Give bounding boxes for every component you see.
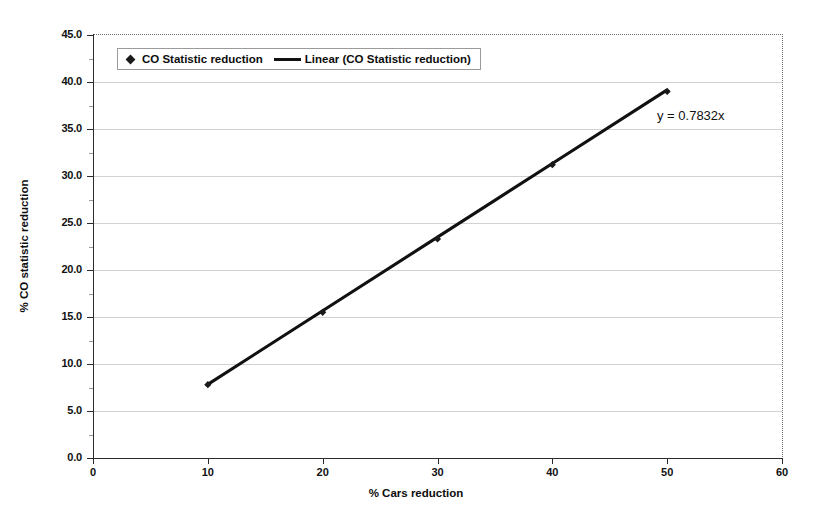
- x-axis-tick-label: 30: [408, 466, 468, 478]
- diamond-marker-icon: [126, 54, 136, 64]
- legend-item-trendline[interactable]: Linear (CO Statistic reduction): [274, 53, 471, 65]
- y-axis-tick-label: 35.0: [30, 122, 82, 134]
- legend-item-scatter[interactable]: CO Statistic reduction: [127, 53, 263, 65]
- gridline-horizontal: [93, 129, 782, 130]
- y-axis-tick-label: 15.0: [30, 310, 82, 322]
- legend-label-scatter: CO Statistic reduction: [142, 53, 263, 65]
- y-axis-tick-label: 10.0: [30, 357, 82, 369]
- gridline-horizontal: [93, 82, 782, 83]
- plot-border-right: [782, 34, 783, 459]
- line-marker-icon: [274, 58, 301, 61]
- y-axis-tick-label: 0.0: [30, 451, 82, 463]
- x-axis-title: % Cars reduction: [0, 487, 832, 499]
- y-axis-tick-label: 40.0: [30, 75, 82, 87]
- gridline-horizontal: [93, 411, 782, 412]
- gridline-horizontal: [93, 223, 782, 224]
- y-axis-tick-label: 20.0: [30, 263, 82, 275]
- x-axis-tick-label: 20: [293, 466, 353, 478]
- y-axis-line: [93, 34, 94, 459]
- chart-legend[interactable]: CO Statistic reduction Linear (CO Statis…: [117, 48, 481, 70]
- x-axis-tick-label: 60: [752, 466, 812, 478]
- gridline-horizontal: [93, 270, 782, 271]
- gridline-horizontal: [93, 176, 782, 177]
- y-axis-tick-label: 45.0: [30, 28, 82, 40]
- plot-border-top: [93, 34, 783, 35]
- y-axis-tick-label: 25.0: [30, 216, 82, 228]
- gridline-horizontal: [93, 317, 782, 318]
- legend-label-trendline: Linear (CO Statistic reduction): [305, 53, 471, 65]
- y-axis-tick-label: 30.0: [30, 169, 82, 181]
- gridline-horizontal: [93, 364, 782, 365]
- x-axis-tick-label: 50: [637, 466, 697, 478]
- x-axis-tick-label: 0: [63, 466, 123, 478]
- plot-area: [93, 35, 782, 458]
- trendline-equation-label: y = 0.7832x: [657, 108, 725, 123]
- x-axis-line: [93, 458, 783, 459]
- y-axis-title: % CO statistic reduction: [18, 156, 30, 336]
- chart-container: 0.05.010.015.020.025.030.035.040.045.0 0…: [0, 0, 832, 521]
- x-axis-tick-label: 10: [178, 466, 238, 478]
- y-axis-tick-label: 5.0: [30, 404, 82, 416]
- x-axis-tick-label: 40: [522, 466, 582, 478]
